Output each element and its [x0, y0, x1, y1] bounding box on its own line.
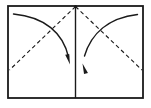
fold-diagram-svg	[0, 0, 151, 108]
fold-diagram-container	[0, 0, 151, 108]
top-center-apex-point	[74, 5, 77, 8]
